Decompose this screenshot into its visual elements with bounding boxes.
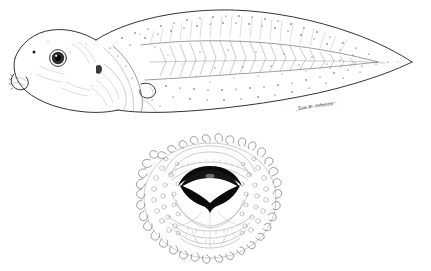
mouth-cavity-highlight bbox=[206, 174, 215, 178]
tadpole-illustration: Tom R. Johnson bbox=[0, 0, 431, 271]
illustration-canvas: Tom R. Johnson bbox=[0, 0, 431, 271]
nostril bbox=[33, 51, 36, 54]
eye-highlight bbox=[55, 55, 57, 57]
